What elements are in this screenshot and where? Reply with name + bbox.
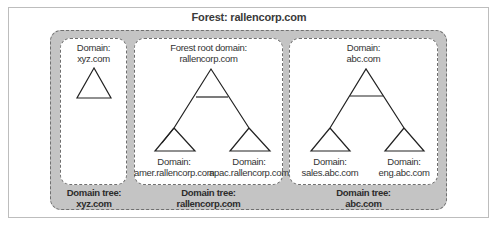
tree-label-abc: Domain tree: abc.com	[289, 187, 438, 209]
domain-triangle-abc-root	[330, 69, 404, 128]
tree-label-line2: abc.com	[289, 198, 438, 209]
tree-label-line1: Domain tree:	[56, 187, 132, 198]
domain-label-line2: abc.com	[289, 53, 438, 64]
domain-label-line2: rallencorp.com	[134, 53, 283, 64]
tree-label-line1: Domain tree:	[289, 187, 438, 198]
tree-label-line2: xyz.com	[56, 198, 132, 209]
domain-label-sales: Domain: sales.abc.com	[295, 156, 365, 178]
domain-label-line1: Domain:	[295, 156, 365, 167]
domain-label-rallencorp: Forest root domain: rallencorp.com	[134, 42, 283, 64]
domain-label-line1: Domain:	[369, 156, 439, 167]
domain-label-amer: Domain: amer.rallencorp.com	[134, 156, 214, 178]
domain-label-line2: amer.rallencorp.com	[134, 167, 214, 178]
tree-label-line2: rallencorp.com	[134, 198, 283, 209]
domain-label-xyz: Domain: xyz.com	[60, 42, 127, 64]
domain-triangle-xyz	[77, 68, 111, 98]
domain-triangle-sales	[311, 128, 350, 151]
domain-triangle-rallencorp-root	[174, 69, 249, 128]
domain-triangle-eng	[385, 128, 424, 151]
domain-label-abc: Domain: abc.com	[289, 42, 438, 64]
tree-label-line1: Domain tree:	[134, 187, 283, 198]
tree-label-xyz: Domain tree: xyz.com	[56, 187, 132, 209]
domain-label-line1: Domain:	[209, 156, 289, 167]
domain-label-line1: Domain:	[60, 42, 127, 53]
domain-triangle-amer	[155, 128, 195, 151]
tree-label-rallencorp: Domain tree: rallencorp.com	[134, 187, 283, 209]
domain-label-line1: Forest root domain:	[134, 42, 283, 53]
domain-label-apac: Domain: apac.rallencorp.com	[209, 156, 289, 178]
domain-label-eng: Domain: eng.abc.com	[369, 156, 439, 178]
domain-label-line2: apac.rallencorp.com	[209, 167, 289, 178]
domain-label-line2: eng.abc.com	[369, 167, 439, 178]
domain-label-line2: xyz.com	[60, 53, 127, 64]
domain-label-line1: Domain:	[134, 156, 214, 167]
domain-label-line1: Domain:	[289, 42, 438, 53]
domain-triangle-apac	[230, 128, 270, 151]
domain-label-line2: sales.abc.com	[295, 167, 365, 178]
